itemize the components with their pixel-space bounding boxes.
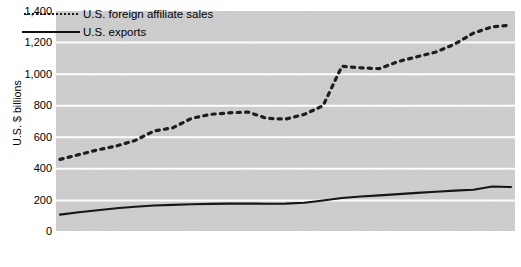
legend-item-exports: U.S. exports [22,23,213,41]
plot-area [56,11,515,232]
series-layer [56,11,515,232]
legend-label: U.S. exports [83,26,146,38]
solid-line-key-icon [22,26,80,38]
y-tick-label: 1,000 [6,69,52,80]
y-tick-label: 400 [6,163,52,174]
y-tick-label: 200 [6,195,52,206]
line-chart: U.S. $ billions 1,400 1,200 1,000 800 60… [0,0,521,267]
y-tick-label: 0 [6,226,52,237]
legend-item-foreign-affiliate-sales: U.S. foreign affiliate sales [22,5,213,23]
legend: U.S. foreign affiliate sales U.S. export… [22,5,213,41]
legend-label: U.S. foreign affiliate sales [83,8,213,20]
dotted-line-key-icon [22,8,80,20]
series-line [60,25,511,159]
y-tick-label: 800 [6,100,52,111]
y-tick-label: 600 [6,132,52,143]
